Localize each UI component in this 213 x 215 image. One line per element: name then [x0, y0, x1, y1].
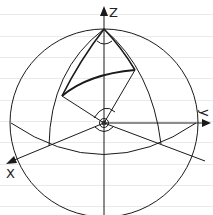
meridian-left: [49, 29, 104, 146]
triangle-edge-right: [104, 29, 135, 70]
triangle-edge-left: [62, 29, 104, 96]
back-axis-line: [104, 123, 205, 161]
z-arrow-icon: [100, 6, 108, 16]
y-arrow-icon: [202, 119, 211, 127]
y-axis-label: y: [198, 109, 213, 117]
x-arrow-icon: [6, 156, 17, 164]
radius-line-right: [104, 70, 135, 123]
x-axis-label: X: [6, 166, 15, 181]
radius-line-left: [62, 96, 104, 123]
sphere-diagram: Z y X: [0, 0, 213, 215]
great-circle-arc: [62, 70, 135, 96]
z-axis-label: Z: [109, 5, 118, 20]
x-axis: [12, 123, 104, 161]
